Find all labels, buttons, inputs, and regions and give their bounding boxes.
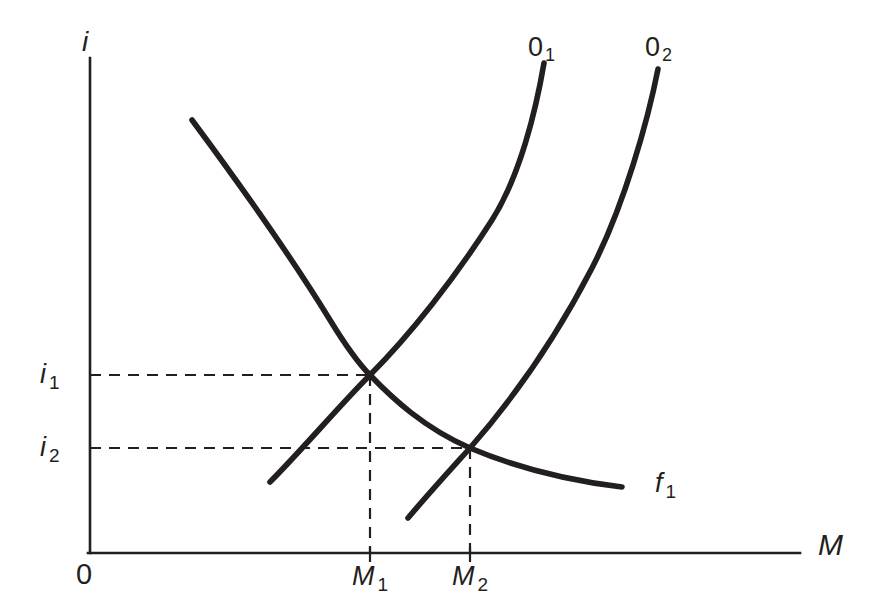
curve-label-supply-01: 01 [528, 34, 553, 61]
curve-label-demand-f1: f1 [655, 470, 673, 497]
curve-money-supply-02 [408, 69, 658, 518]
curve-label-supply-02-text: 0 [645, 32, 660, 62]
y-tick-label-i1-subscript: 1 [49, 372, 60, 393]
x-tick-label-m2: M2 [452, 563, 485, 590]
y-tick-label-i2-text: i [40, 432, 46, 462]
curve-label-demand-f1-text: f [655, 468, 663, 498]
x-tick-label-m1-text: M [352, 561, 375, 591]
curve-money-demand-f1 [192, 120, 622, 487]
money-market-figure: i M 0 01 02 f1 i1 i2 M1 M2 [0, 0, 888, 616]
y-tick-label-i1: i1 [40, 361, 57, 388]
curve-label-demand-f1-subscript: 1 [666, 481, 677, 502]
x-tick-label-m2-text: M [452, 561, 475, 591]
curve-label-supply-01-subscript: 1 [545, 45, 555, 65]
x-tick-label-m1-subscript: 1 [378, 574, 389, 595]
x-axis-label: M [818, 530, 843, 560]
x-tick-label-m2-subscript: 2 [478, 574, 489, 595]
x-tick-label-m1: M1 [352, 563, 385, 590]
y-tick-label-i1-text: i [40, 359, 46, 389]
curve-label-supply-02-subscript: 2 [662, 45, 672, 65]
y-tick-label-i2: i2 [40, 434, 57, 461]
y-axis-label: i [82, 28, 88, 56]
origin-label: 0 [76, 560, 92, 589]
curve-label-supply-02: 02 [645, 34, 670, 61]
y-tick-label-i2-subscript: 2 [49, 445, 60, 466]
curve-label-supply-01-text: 0 [528, 32, 543, 62]
curve-money-supply-01 [270, 63, 544, 482]
plot-canvas [0, 0, 888, 616]
